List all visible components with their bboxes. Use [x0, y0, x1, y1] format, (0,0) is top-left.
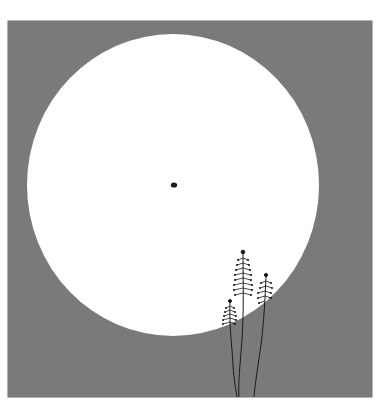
center-dot — [171, 182, 177, 187]
artwork-canvas — [0, 0, 390, 417]
